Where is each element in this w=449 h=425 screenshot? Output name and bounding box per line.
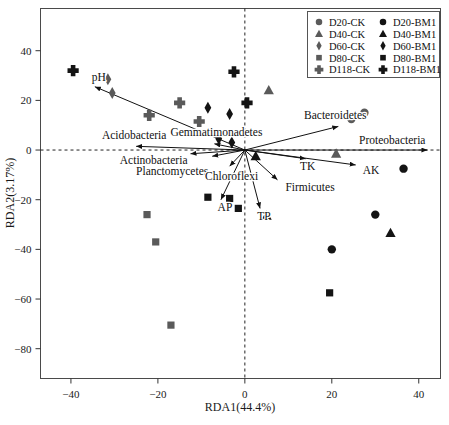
legend-marker xyxy=(316,19,323,26)
y-axis-title: RDA2(3.17%) xyxy=(3,158,17,228)
legend-label[interactable]: D118-BM1 xyxy=(393,64,441,75)
data-point xyxy=(399,164,407,172)
data-point xyxy=(204,194,211,201)
vector-label: Chloroflexi xyxy=(205,170,258,182)
legend-marker xyxy=(380,55,386,61)
data-point xyxy=(167,322,174,329)
data-point xyxy=(385,228,395,237)
legend-label[interactable]: D80-CK xyxy=(329,53,366,64)
data-point xyxy=(68,65,79,76)
data-point xyxy=(264,85,274,94)
legend-label[interactable]: D80-BM1 xyxy=(393,53,436,64)
data-point xyxy=(371,210,379,218)
legend-label[interactable]: D60-CK xyxy=(329,41,366,52)
y-tick-label: −80 xyxy=(14,343,32,355)
vector-label: TP xyxy=(257,210,270,222)
y-tick-label: 20 xyxy=(21,94,33,106)
legend-label[interactable]: D118-CK xyxy=(329,64,370,75)
data-point xyxy=(241,97,252,108)
data-point xyxy=(328,245,336,253)
data-point xyxy=(174,97,185,108)
x-axis-title: RDA1(44.4%) xyxy=(205,400,275,414)
x-tick-label: 0 xyxy=(242,388,248,400)
legend: D20-CKD20-BM1D40-CKD40-BM1D60-CKD60-BM1D… xyxy=(308,12,442,78)
legend-marker xyxy=(316,55,322,61)
axis-titles: RDA1(44.4%) RDA2(3.17%) xyxy=(3,158,275,414)
data-point xyxy=(228,66,239,77)
vector-label: AP xyxy=(218,201,233,213)
environment-vectors xyxy=(95,87,428,209)
x-tick-label: 20 xyxy=(326,388,338,400)
rda-biplot-figure: −40−200204040200−20−40−60−80 pHpHAcidoba… xyxy=(0,0,449,425)
data-point xyxy=(204,102,211,114)
vector-label: Gemmatimonadetes xyxy=(170,126,262,138)
legend-label[interactable]: D20-BM1 xyxy=(393,17,436,28)
x-tick-label: −20 xyxy=(149,388,167,400)
legend-label[interactable]: D20-CK xyxy=(329,17,366,28)
vector-label: Acidobacteria xyxy=(102,129,167,141)
x-tick-label: −40 xyxy=(62,388,80,400)
sample-points xyxy=(68,65,408,329)
data-point xyxy=(226,108,233,120)
legend-label[interactable]: D60-BM1 xyxy=(393,41,436,52)
legend-label[interactable]: D40-BM1 xyxy=(393,29,436,40)
y-tick-label: −60 xyxy=(14,293,32,305)
vector-label: AK xyxy=(363,164,380,176)
y-tick-label: 0 xyxy=(26,144,32,156)
y-tick-label: −40 xyxy=(14,243,32,255)
data-point xyxy=(235,205,242,212)
axis-ticks: −40−200204040200−20−40−60−80 xyxy=(14,45,424,400)
vector-label: Planctomycetes xyxy=(136,165,209,178)
vector-label: TK xyxy=(300,160,316,172)
vector-label: pH xyxy=(92,71,106,84)
x-tick-label: 40 xyxy=(413,388,425,400)
legend-label[interactable]: D40-CK xyxy=(329,29,366,40)
rda-plot-canvas: −40−200204040200−20−40−60−80 pHpHAcidoba… xyxy=(0,0,449,425)
data-point xyxy=(143,211,150,218)
legend-marker xyxy=(380,19,387,26)
data-point xyxy=(109,87,116,99)
y-tick-label: 40 xyxy=(21,45,33,57)
vector-label: Firmicutes xyxy=(285,181,335,193)
vector-label: Proteobacteria xyxy=(359,134,425,146)
data-point xyxy=(326,289,333,296)
vector-label: Bacteroidetes xyxy=(304,109,367,121)
data-point xyxy=(152,238,159,245)
vector-label: Actinobacteria xyxy=(120,154,188,166)
